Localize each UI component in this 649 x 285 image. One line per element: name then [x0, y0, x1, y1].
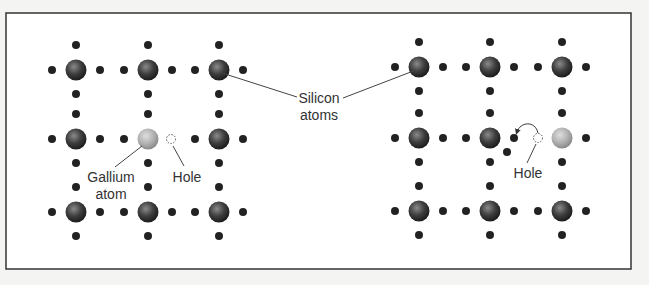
silicon-atom [409, 57, 430, 78]
valence-electron [72, 90, 80, 98]
valence-electron [415, 38, 423, 46]
silicon-label-line1: Silicon [298, 90, 339, 106]
valence-electron [144, 159, 152, 167]
right-lattice [391, 38, 590, 239]
valence-electron [510, 207, 518, 215]
gallium-label-line1: Gallium [87, 169, 134, 185]
silicon-atom [66, 202, 87, 223]
valence-electron [415, 158, 423, 166]
valence-electron [486, 158, 494, 166]
gallium-atom [552, 128, 573, 149]
valence-electron [558, 87, 566, 95]
valence-electron [72, 41, 80, 49]
gallium-atom [138, 129, 159, 150]
valence-electron [215, 159, 223, 167]
valence-electron [144, 183, 152, 191]
valence-electron [191, 66, 199, 74]
displaced-electron [503, 148, 511, 156]
valence-electron [191, 135, 199, 143]
silicon-atom [480, 57, 501, 78]
silicon-atom [480, 128, 501, 149]
valence-electron [462, 63, 470, 71]
valence-electron [120, 135, 128, 143]
valence-electron [439, 207, 447, 215]
valence-electron [72, 232, 80, 240]
valence-electron [558, 158, 566, 166]
valence-electron [144, 110, 152, 118]
valence-electron [120, 208, 128, 216]
valence-electron [48, 66, 56, 74]
valence-electron [96, 208, 104, 216]
valence-electron [462, 207, 470, 215]
semiconductor-doping-diagram: Silicon atoms Gallium atom Hole Hole [0, 0, 649, 285]
valence-electron [120, 66, 128, 74]
valence-electron [534, 63, 542, 71]
valence-electron [72, 183, 80, 191]
valence-electron [144, 232, 152, 240]
valence-electron [391, 134, 399, 142]
valence-electron [96, 135, 104, 143]
valence-electron [239, 66, 247, 74]
valence-electron [486, 109, 494, 117]
valence-electron [415, 87, 423, 95]
valence-electron [168, 66, 176, 74]
silicon-atom [409, 128, 430, 149]
valence-electron [510, 63, 518, 71]
silicon-atom [66, 129, 87, 150]
silicon-atom [209, 129, 230, 150]
valence-electron [168, 208, 176, 216]
hole-label-left: Hole [173, 169, 202, 185]
valence-electron [558, 38, 566, 46]
valence-electron [391, 207, 399, 215]
valence-electron [215, 232, 223, 240]
silicon-atom [480, 201, 501, 222]
valence-electron [486, 87, 494, 95]
silicon-atom [138, 202, 159, 223]
valence-electron [439, 134, 447, 142]
valence-electron [558, 109, 566, 117]
valence-electron [462, 134, 470, 142]
valence-electron [582, 207, 590, 215]
silicon-atom [209, 60, 230, 81]
silicon-label-line2: atoms [300, 107, 338, 123]
hole-label-right: Hole [514, 165, 543, 181]
valence-electron [72, 159, 80, 167]
silicon-atom [409, 201, 430, 222]
valence-electron [486, 38, 494, 46]
valence-electron [415, 109, 423, 117]
valence-electron [486, 231, 494, 239]
valence-electron [534, 207, 542, 215]
valence-electron [582, 63, 590, 71]
valence-electron [558, 182, 566, 190]
valence-electron [582, 134, 590, 142]
valence-electron [144, 41, 152, 49]
valence-electron [72, 110, 80, 118]
gallium-label-line2: atom [95, 186, 126, 202]
valence-electron [215, 41, 223, 49]
valence-electron [239, 208, 247, 216]
silicon-atom [66, 60, 87, 81]
valence-electron [415, 182, 423, 190]
valence-electron [144, 90, 152, 98]
valence-electron [510, 134, 518, 142]
valence-electron [415, 231, 423, 239]
valence-electron [48, 135, 56, 143]
valence-electron [215, 110, 223, 118]
valence-electron [215, 90, 223, 98]
valence-electron [486, 182, 494, 190]
valence-electron [558, 231, 566, 239]
valence-electron [439, 63, 447, 71]
valence-electron [191, 208, 199, 216]
valence-electron [215, 183, 223, 191]
left-lattice [48, 41, 247, 240]
valence-electron [48, 208, 56, 216]
silicon-atom [552, 57, 573, 78]
silicon-atom [552, 201, 573, 222]
valence-electron [239, 135, 247, 143]
silicon-atom [209, 202, 230, 223]
valence-electron [96, 66, 104, 74]
silicon-atom [138, 60, 159, 81]
valence-electron [391, 63, 399, 71]
